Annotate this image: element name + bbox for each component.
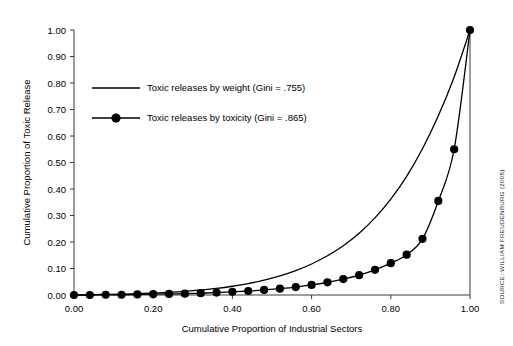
source-note-wrapper: SOURCE: WILLIAM FREUDENBURG (2005) [499,144,511,304]
y-tick-label-2: 0.20 [48,237,67,248]
y-tick-label-4: 0.40 [48,184,67,195]
chart-figure: 0.000.100.200.300.400.500.600.700.800.90… [0,0,513,346]
data-point-marker [212,289,220,297]
data-series [70,26,474,299]
x-tick-label-5: 1.00 [461,303,480,314]
series-1 [70,26,474,299]
data-point-marker [403,251,411,259]
legend-item-0: Toxic releases by weight (Gini = .755) [92,82,305,93]
legend-item-1: Toxic releases by toxicity (Gini = .865) [92,112,307,123]
x-tick-label-1: 0.20 [144,303,163,314]
data-point-marker [133,290,141,298]
legend-label-1: Toxic releases by toxicity (Gini = .865) [147,112,307,123]
source-note: SOURCE: WILLIAM FREUDENBURG (2005) [498,169,505,304]
y-tick-label-7: 0.70 [48,104,67,115]
legend-label-0: Toxic releases by weight (Gini = .755) [147,82,305,93]
tick-marks [70,30,470,299]
x-tick-label-0: 0.00 [65,303,84,314]
data-point-marker [276,285,284,293]
data-point-marker [339,275,347,283]
data-point-marker [149,290,157,298]
lorenz-curve-chart: 0.000.100.200.300.400.500.600.700.800.90… [0,0,513,346]
data-point-marker [418,235,426,243]
y-tick-label-10: 1.00 [48,25,67,36]
y-tick-label-3: 0.30 [48,210,67,221]
data-point-marker [323,278,331,286]
data-point-marker [86,291,94,299]
x-tick-labels: 0.000.200.400.600.801.00 [65,303,480,314]
legend-marker-icon-1 [111,113,120,122]
data-point-marker [165,290,173,298]
x-tick-label-4: 0.80 [382,303,401,314]
y-tick-label-1: 0.10 [48,263,67,274]
y-tick-label-6: 0.60 [48,131,67,142]
data-point-marker [117,291,125,299]
x-axis-title: Cumulative Proportion of Industrial Sect… [182,323,363,334]
y-tick-label-0: 0.00 [48,290,67,301]
y-tick-label-9: 0.90 [48,51,67,62]
data-point-marker [308,281,316,289]
chart-legend: Toxic releases by weight (Gini = .755)To… [92,82,307,123]
data-point-marker [387,259,395,267]
data-point-marker [197,289,205,297]
data-point-marker [228,288,236,296]
data-point-marker [371,266,379,274]
data-point-marker [292,283,300,291]
y-axis-title: Cumulative Proportion of Toxic Release [21,79,32,245]
x-tick-label-2: 0.40 [223,303,242,314]
data-point-marker [434,197,442,205]
data-point-marker [466,26,474,34]
x-tick-label-3: 0.60 [302,303,321,314]
data-point-marker [102,291,110,299]
data-point-marker [181,290,189,298]
y-tick-label-5: 0.50 [48,157,67,168]
data-point-marker [260,286,268,294]
y-tick-labels: 0.000.100.200.300.400.500.600.700.800.90… [48,25,67,301]
data-point-marker [70,291,78,299]
data-point-marker [355,271,363,279]
data-point-marker [244,287,252,295]
y-tick-label-8: 0.80 [48,78,67,89]
data-point-marker [450,145,458,153]
